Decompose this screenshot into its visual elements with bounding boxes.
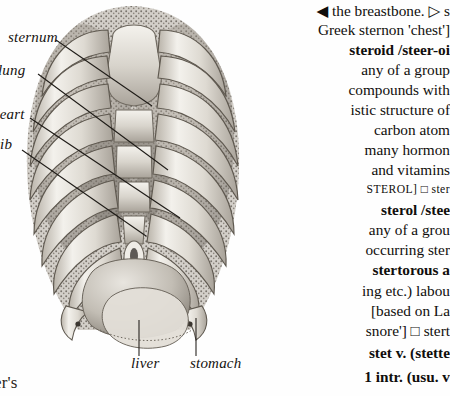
illustration-label-heart: heart [0, 106, 25, 123]
entry-line: carbon atom [246, 121, 450, 139]
anatomy-illustration [0, 0, 268, 378]
dictionary-page: sternum lung heart rib liver stomach er'… [0, 0, 450, 396]
entry-sense-number: 1 intr. (usu. v [246, 368, 450, 386]
entry-headword-sterol: sterol /stee [246, 201, 450, 219]
entry-line: compounds with [246, 81, 450, 99]
entry-cross-reference: STEROL] □ ster [246, 183, 450, 196]
entry-line: istic structure of [246, 101, 450, 119]
entry-line: many hormon [246, 141, 450, 159]
illustration-label-rib: rib [0, 136, 12, 153]
entry-line: ◀ the breastbone. ▷ s [246, 2, 450, 20]
entry-line: any of a group [246, 61, 450, 79]
illustration-label-liver: liver [131, 355, 160, 372]
entry-headword-stet: stet v. (stette [246, 344, 450, 362]
entry-line: [based on La [246, 302, 450, 320]
entry-line: snore'] □ stert [246, 322, 450, 340]
entry-line: and vitamins [246, 161, 450, 179]
entry-line: ing etc.) labou [246, 282, 450, 300]
entry-line: Greek sternon 'chest'] [246, 21, 450, 39]
entry-line: occurring ster [246, 241, 450, 259]
dictionary-text-column: ◀ the breastbone. ▷ s Greek sternon 'che… [246, 0, 450, 396]
illustration-label-lung: lung [0, 62, 25, 79]
cut-off-text-bottom-left: er's [0, 373, 18, 393]
illustration-label-sternum: sternum [8, 29, 58, 46]
abdominal-organs [82, 259, 192, 349]
entry-headword-steroid: steroid /steer-oi [246, 41, 450, 59]
entry-line: any of a grou [246, 221, 450, 239]
illustration-label-stomach: stomach [190, 355, 241, 372]
entry-headword-stertorous: stertorous a [246, 261, 450, 279]
